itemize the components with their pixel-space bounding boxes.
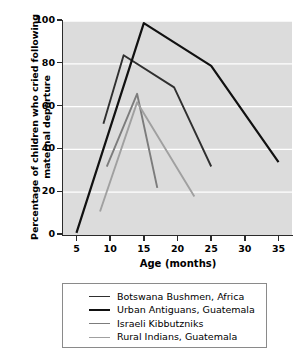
x-tick-label: 25 xyxy=(198,243,224,254)
y-tick-label: 100 xyxy=(15,15,55,25)
series-lines xyxy=(76,23,278,233)
y-tick-label: 20 xyxy=(15,186,55,196)
legend-item: Israeli Kibbutzniks xyxy=(89,317,266,330)
x-tick-label: 10 xyxy=(97,243,123,254)
legend-item: Urban Antiguans, Guatemala xyxy=(89,304,266,317)
chart-svg xyxy=(63,21,292,235)
legend-label: Rural Indians, Guatemala xyxy=(117,331,237,343)
x-tick-label: 35 xyxy=(266,243,292,254)
y-tick-mark xyxy=(57,19,62,20)
x-tick-label: 20 xyxy=(165,243,191,254)
x-tick-label: 30 xyxy=(232,243,258,254)
y-tick-mark xyxy=(57,148,62,149)
legend-label: Urban Antiguans, Guatemala xyxy=(117,304,255,316)
legend-label: Botswana Bushmen, Africa xyxy=(117,291,244,303)
x-tick-mark xyxy=(244,236,245,241)
y-tick-mark xyxy=(57,191,62,192)
y-tick-mark xyxy=(57,105,62,106)
y-axis-line xyxy=(62,20,63,236)
x-tick-label: 5 xyxy=(63,243,89,254)
x-tick-mark xyxy=(76,236,77,241)
y-axis-title: Percentage of children who cried followi… xyxy=(24,12,58,242)
x-tick-mark xyxy=(177,236,178,241)
series-line xyxy=(76,23,278,233)
series-line xyxy=(107,94,158,188)
x-tick-mark xyxy=(210,236,211,241)
legend: Botswana Bushmen, Africa Urban Antiguans… xyxy=(62,283,267,348)
x-tick-label: 15 xyxy=(131,243,157,254)
legend-item: Botswana Bushmen, Africa xyxy=(89,290,266,303)
x-tick-mark xyxy=(143,236,144,241)
legend-swatch-line-icon xyxy=(89,309,110,311)
y-tick-mark xyxy=(57,62,62,63)
y-tick-label: 40 xyxy=(15,143,55,153)
plot-area xyxy=(63,21,292,235)
legend-swatch-line-icon xyxy=(89,296,110,297)
legend-swatch-line-icon xyxy=(89,337,110,338)
x-tick-mark xyxy=(109,236,110,241)
x-tick-mark xyxy=(278,236,279,241)
legend-label: Israeli Kibbutzniks xyxy=(117,318,203,330)
y-tick-label: 60 xyxy=(15,101,55,111)
y-tick-mark xyxy=(57,233,62,234)
figure: Percentage of children who cried followi… xyxy=(0,0,306,358)
x-axis-title: Age (months) xyxy=(63,258,293,269)
y-tick-label: 80 xyxy=(15,58,55,68)
legend-swatch-line-icon xyxy=(89,323,110,324)
y-tick-label: 0 xyxy=(15,229,55,239)
legend-item: Rural Indians, Guatemala xyxy=(89,331,266,344)
